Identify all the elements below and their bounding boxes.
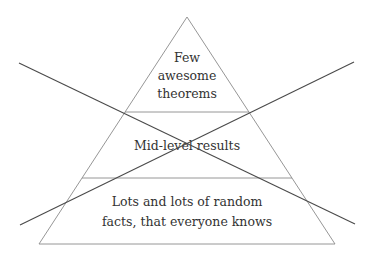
pyramid-diagram: Few awesome theorems Mid-level results L… (0, 0, 375, 256)
tier-top-line-3: theorems (157, 86, 217, 101)
tier-top-line-1: Few (174, 50, 200, 65)
tier-bottom-line-1: Lots and lots of random (112, 194, 263, 209)
tier-middle-line-1: Mid-level results (134, 138, 240, 153)
tier-bottom: Lots and lots of random facts, that ever… (102, 194, 272, 229)
tier-top: Few awesome theorems (157, 50, 217, 101)
tier-top-line-2: awesome (158, 68, 217, 83)
tier-bottom-line-2: facts, that everyone knows (102, 214, 272, 229)
tier-middle: Mid-level results (134, 138, 240, 153)
